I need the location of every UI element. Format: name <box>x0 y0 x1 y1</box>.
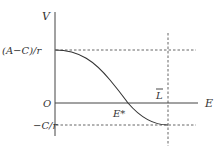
origin-label: O <box>43 98 51 109</box>
bound-label-group: L <box>155 89 163 101</box>
bound-label: L <box>155 90 163 101</box>
value-curve <box>55 50 168 125</box>
x-axis-label: E <box>204 97 213 110</box>
diagram-canvas: V (A−C)/r O −C/r E* L E <box>0 0 222 148</box>
lower-level-label: −C/r <box>33 120 58 131</box>
upper-level-label: (A−C)/r <box>2 45 42 56</box>
crossing-label: E* <box>112 108 125 119</box>
y-axis-label: V <box>42 10 51 23</box>
